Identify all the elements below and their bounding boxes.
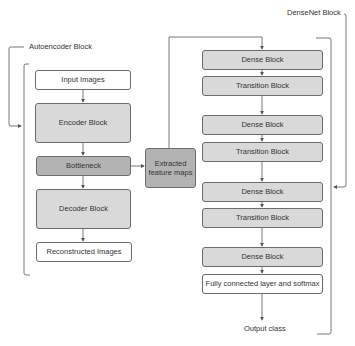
reconstructed-images-block: Reconstructed Images <box>36 242 132 262</box>
encoder-block: Encoder Block <box>35 103 131 143</box>
dense-block-3: Dense Block <box>202 182 323 202</box>
dense-block-1: Dense Block <box>202 50 323 70</box>
dense-block-2: Dense Block <box>202 115 323 135</box>
architecture-diagram: Autoencoder Block Input Images Encoder B… <box>0 0 355 346</box>
densenet-title: DenseNet Block <box>287 8 341 17</box>
transition-block-2: Transition Block <box>202 142 323 162</box>
input-images-block: Input Images <box>35 70 131 90</box>
transition-block-3: Transition Block <box>202 208 323 228</box>
dense-block-4: Dense Block <box>202 247 323 267</box>
bottleneck-block: Bottleneck <box>36 156 131 176</box>
transition-block-1: Transition Block <box>202 76 323 96</box>
output-class-label: Output class <box>244 324 286 333</box>
autoencoder-title: Autoencoder Block <box>29 42 92 51</box>
decoder-block: Decoder Block <box>36 189 131 229</box>
fully-connected-softmax-block: Fully connected layer and softmax <box>202 274 323 294</box>
extracted-feature-maps-block: Extracted feature maps <box>145 148 196 188</box>
